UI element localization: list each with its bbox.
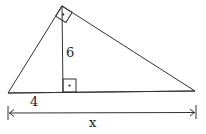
base-line bbox=[8, 91, 195, 93]
dimension-line bbox=[9, 113, 195, 114]
triangle-outline bbox=[8, 6, 195, 93]
right-angle-mark-foot bbox=[63, 79, 76, 92]
label-left-segment: 4 bbox=[30, 94, 38, 109]
label-altitude: 6 bbox=[66, 45, 74, 60]
right-triangle-diagram: 6 4 x bbox=[0, 0, 206, 134]
right-angle-mark-top bbox=[56, 6, 73, 23]
right-angle-dot-foot bbox=[68, 84, 70, 86]
label-base-total: x bbox=[89, 115, 97, 130]
